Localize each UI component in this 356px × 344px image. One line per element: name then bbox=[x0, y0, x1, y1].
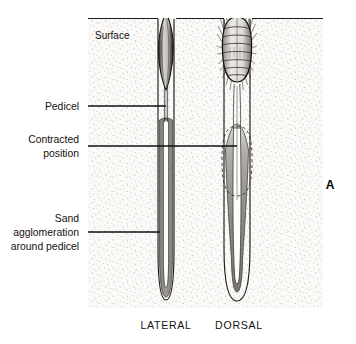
caption-lateral: LATERAL bbox=[140, 319, 191, 331]
captions: LATERAL DORSAL bbox=[140, 319, 262, 331]
lateral-view bbox=[158, 6, 174, 300]
label-pedicel: Pedicel bbox=[45, 101, 79, 112]
label-contracted-line2: position bbox=[43, 148, 79, 159]
label-contracted-line1: Contracted bbox=[28, 134, 79, 145]
lateral-sand-agglomeration bbox=[160, 118, 173, 297]
sand-region bbox=[88, 18, 323, 308]
label-surface: Surface bbox=[95, 30, 130, 41]
label-sand-line1: Sand bbox=[55, 213, 79, 224]
figure-root: Surface Pedicel Contracted position Sand… bbox=[0, 0, 356, 344]
panel-letter-a: A bbox=[326, 178, 335, 192]
label-sand-line3: around pedicel bbox=[11, 241, 79, 252]
burrow-diagram-svg: Surface Pedicel Contracted position Sand… bbox=[0, 0, 356, 344]
label-sand-line2: agglomeration bbox=[13, 227, 79, 238]
caption-dorsal: DORSAL bbox=[215, 319, 263, 331]
